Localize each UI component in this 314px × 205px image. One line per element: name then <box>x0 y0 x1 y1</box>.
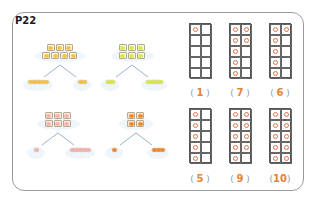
ten-frame-cell <box>230 142 241 153</box>
ten-frame-cell <box>281 46 292 57</box>
paren-close: ) <box>243 174 249 184</box>
orange-icon <box>112 148 117 152</box>
circle-counter-icon <box>233 38 238 43</box>
fruit-pile-right <box>70 148 91 152</box>
ten-frame-cell <box>201 57 212 68</box>
ten-frame-cell <box>230 153 241 164</box>
banana-icon <box>82 80 87 84</box>
fruit-box-row <box>119 52 146 59</box>
paren-close: ) <box>203 174 209 184</box>
banana-icon <box>47 44 55 51</box>
orange-icon <box>160 148 165 152</box>
bond-lines-icon <box>116 132 156 146</box>
ten-frame <box>269 23 291 78</box>
circle-counter-icon <box>244 38 249 43</box>
circle-counter-icon <box>233 112 238 117</box>
orange-icon <box>136 112 144 119</box>
ten-frame-cell <box>241 153 252 164</box>
ten-frame-cell <box>241 142 252 153</box>
orange-icon <box>127 112 135 119</box>
ten-frame-cell <box>230 24 241 35</box>
peache-icon <box>34 148 39 152</box>
fruit-pile-right <box>78 80 87 84</box>
circle-counter-icon <box>273 112 278 117</box>
circle-counter-icon <box>284 156 289 161</box>
ten-frame-cell <box>230 46 241 57</box>
circle-counter-icon <box>233 71 238 76</box>
orange-icon <box>127 120 135 127</box>
circle-counter-icon <box>273 123 278 128</box>
lemon-icon <box>158 80 163 84</box>
ten-frame-cell <box>281 153 292 164</box>
answer-number: 10 <box>273 173 287 184</box>
ten-frame-cell <box>190 68 201 79</box>
fruit-box-row <box>47 44 74 51</box>
banana-icon <box>69 52 77 59</box>
banana-icon <box>51 52 59 59</box>
circle-counter-icon <box>284 145 289 150</box>
lemon-icon <box>110 80 115 84</box>
circle-counter-icon <box>193 112 198 117</box>
ten-frame-cell <box>201 109 212 120</box>
ten-frame-cell <box>241 68 252 79</box>
circle-counter-icon <box>284 134 289 139</box>
answer-label: ( 1 ) <box>180 87 220 98</box>
ten-frame-cell <box>190 142 201 153</box>
bond-lines-icon <box>38 132 78 146</box>
peache-icon <box>63 112 71 119</box>
ten-frame-cell <box>201 24 212 35</box>
lemon-icon <box>128 44 136 51</box>
fruit-box-row <box>127 120 145 127</box>
ten-frame-cell <box>270 57 281 68</box>
ten-frame <box>189 108 211 163</box>
circle-counter-icon <box>244 123 249 128</box>
ten-frame-cell <box>241 120 252 131</box>
answer-label: ( 5 ) <box>180 173 220 184</box>
circle-counter-icon <box>244 134 249 139</box>
fruit-pile-left <box>28 80 49 84</box>
answer-label: (10) <box>260 173 300 184</box>
ten-frame-cell <box>241 46 252 57</box>
circle-counter-icon <box>284 27 289 32</box>
circle-counter-icon <box>193 27 198 32</box>
lemon-icon <box>119 44 127 51</box>
circle-counter-icon <box>284 112 289 117</box>
ten-frame-cell <box>190 153 201 164</box>
ten-frame-cell <box>281 35 292 46</box>
circle-counter-icon <box>233 156 238 161</box>
ten-frame-cell <box>190 46 201 57</box>
bond-lines-icon <box>112 64 152 78</box>
circle-counter-icon <box>273 60 278 65</box>
peache-icon <box>45 112 53 119</box>
fruit-pile-left <box>106 80 115 84</box>
ten-frame-cell <box>190 120 201 131</box>
bond-lines-icon <box>40 64 80 78</box>
circle-counter-icon <box>233 27 238 32</box>
ten-frame <box>229 23 251 78</box>
ten-frame-cell <box>190 109 201 120</box>
ten-frame-cell <box>241 131 252 142</box>
ten-frame-cell <box>281 57 292 68</box>
ten-frame-cell <box>241 57 252 68</box>
circle-counter-icon <box>233 60 238 65</box>
answer-label: ( 6 ) <box>260 87 300 98</box>
lemon-icon <box>119 52 127 59</box>
ten-frame-cell <box>190 24 201 35</box>
ten-frame-cell <box>270 46 281 57</box>
circle-counter-icon <box>273 134 278 139</box>
ten-frame-cell <box>230 109 241 120</box>
ten-frame-cell <box>190 57 201 68</box>
circle-counter-icon <box>273 156 278 161</box>
banana-icon <box>56 44 64 51</box>
fruit-box-row <box>45 120 72 127</box>
ten-frame-cell <box>201 131 212 142</box>
fruit-pile-left <box>34 148 39 152</box>
lemon-icon <box>137 52 145 59</box>
circle-counter-icon <box>273 49 278 54</box>
ten-frame-cell <box>270 142 281 153</box>
fruit-pile-left <box>112 148 117 152</box>
worksheet-frame <box>12 12 304 191</box>
answer-label: ( 7 ) <box>220 87 260 98</box>
circle-counter-icon <box>244 145 249 150</box>
orange-icon <box>136 120 144 127</box>
